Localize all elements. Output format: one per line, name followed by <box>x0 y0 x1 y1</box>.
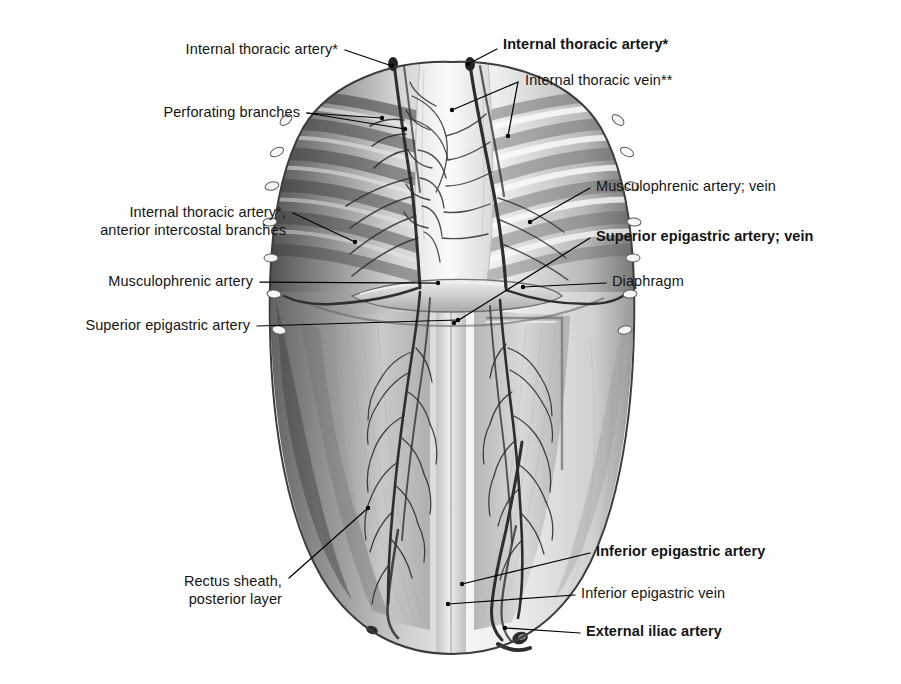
leader-endpoint-musculophrenic-artery-left <box>436 281 440 285</box>
leader-endpoint-superior-epigastric-artery-vein <box>452 321 456 325</box>
leader-internal-thoracic-artery-left <box>345 50 392 66</box>
label-diaphragm: Diaphragm <box>612 272 684 290</box>
leader-endpoint-internal-thoracic-artery-right <box>466 62 470 66</box>
label-inferior-epigastric-vein: Inferior epigastric vein <box>581 584 725 602</box>
leader-endpoint-perforating-branches <box>403 127 407 131</box>
leader-endpoint-internal-thoracic-vein <box>450 108 454 112</box>
leader-endpoint-musculophrenic-artery-vein <box>528 220 532 224</box>
leader-endpoint-internal-thoracic-artery-anterior-intercostal-branches <box>353 240 357 244</box>
leader-endpoint-internal-thoracic-vein <box>506 134 510 138</box>
label-internal-thoracic-artery-left: Internal thoracic artery* <box>186 40 338 58</box>
leader-endpoint-inferior-epigastric-vein <box>446 602 450 606</box>
leader-endpoint-diaphragm <box>521 285 525 289</box>
leader-endpoint-rectus-sheath-posterior-layer <box>366 506 370 510</box>
label-perforating-branches: Perforating branches <box>163 103 300 121</box>
sternum <box>415 62 493 284</box>
leader-endpoint-inferior-epigastric-artery <box>460 582 464 586</box>
anatomical-figure: Internal thoracic artery*Perforating bra… <box>0 0 901 684</box>
label-superior-epigastric-artery-vein: Superior epigastric artery; vein <box>596 227 814 245</box>
label-internal-thoracic-artery-anterior-intercostal-branches: Internal thoracic artery*, anterior inte… <box>100 203 286 239</box>
label-inferior-epigastric-artery: Inferior epigastric artery <box>596 542 765 560</box>
leader-endpoint-external-iliac-artery <box>503 626 507 630</box>
thorax-region <box>262 55 642 300</box>
label-internal-thoracic-vein: Internal thoracic vein** <box>525 71 672 89</box>
label-rectus-sheath-posterior-layer: Rectus sheath, posterior layer <box>184 572 282 608</box>
label-superior-epigastric-artery-left: Superior epigastric artery <box>85 316 250 334</box>
leader-endpoint-internal-thoracic-artery-left <box>390 64 394 68</box>
anatomy-illustration <box>0 0 901 684</box>
label-internal-thoracic-artery-right: Internal thoracic artery* <box>503 35 668 53</box>
leader-internal-thoracic-artery-right <box>468 49 497 64</box>
label-external-iliac-artery: External iliac artery <box>586 622 722 640</box>
label-musculophrenic-artery-left: Musculophrenic artery <box>108 272 253 290</box>
leader-endpoint-superior-epigastric-artery-left <box>456 318 460 322</box>
leader-endpoint-perforating-branches <box>380 116 384 120</box>
abdominal-region <box>262 286 642 666</box>
label-musculophrenic-artery-vein: Musculophrenic artery; vein <box>596 177 776 195</box>
